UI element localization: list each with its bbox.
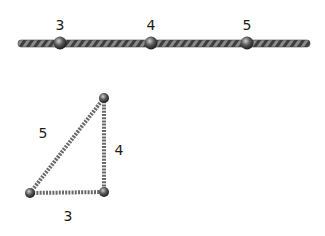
triangle-knot-left <box>25 188 35 198</box>
rope-knot-4 <box>145 37 158 50</box>
base-label: 3 <box>64 209 73 223</box>
base-rope <box>30 192 104 193</box>
rope-knot-3 <box>54 37 67 50</box>
diagram-canvas <box>0 0 325 236</box>
knot-label-3: 3 <box>56 18 65 32</box>
knot-label-4: 4 <box>147 18 156 32</box>
triangle-knot-top <box>99 93 109 103</box>
rope-triangle <box>25 93 109 198</box>
hypotenuse-label: 5 <box>39 126 48 140</box>
knot-label-5: 5 <box>243 18 252 32</box>
knotted-rope <box>18 37 310 50</box>
vertical-side-label: 4 <box>115 143 124 157</box>
triangle-knot-right-angle <box>99 187 109 197</box>
hypotenuse-rope <box>30 98 104 193</box>
rope-knot-5 <box>241 37 254 50</box>
